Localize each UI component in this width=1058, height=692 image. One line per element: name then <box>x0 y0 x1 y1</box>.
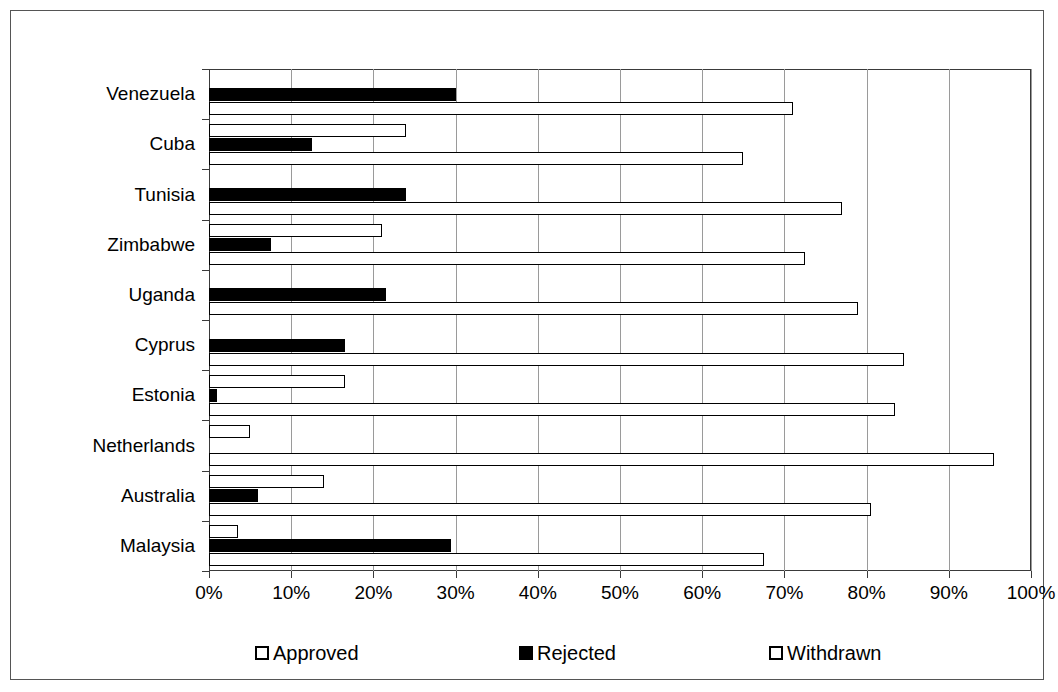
value-axis-tick-label: 20% <box>354 583 392 602</box>
category-axis-tick <box>202 69 209 70</box>
value-axis-tick-label: 50% <box>601 583 639 602</box>
bar-rejected[interactable] <box>209 138 312 151</box>
value-axis-tick <box>867 571 868 578</box>
value-axis-tick <box>620 571 621 578</box>
bar-approved[interactable] <box>209 503 871 516</box>
bar-group <box>209 471 1031 521</box>
bar-approved[interactable] <box>209 353 904 366</box>
value-axis-tick <box>784 571 785 578</box>
bar-rejected[interactable] <box>209 339 345 352</box>
bar-group <box>209 370 1031 420</box>
value-axis-tick <box>209 571 210 578</box>
category-label: Australia <box>121 486 195 505</box>
value-axis-tick-label: 100% <box>1007 583 1056 602</box>
legend-label: Rejected <box>537 642 616 665</box>
value-axis-tick <box>538 571 539 578</box>
legend-label: Approved <box>273 642 359 665</box>
bar-withdrawn[interactable] <box>209 375 345 388</box>
category-axis-tick <box>202 370 209 371</box>
bar-approved[interactable] <box>209 403 895 416</box>
chart-legend: ApprovedRejectedWithdrawn <box>209 636 1031 670</box>
legend-item-rejected[interactable]: Rejected <box>519 642 616 665</box>
category-label: Malaysia <box>120 536 195 555</box>
category-axis-tick <box>202 169 209 170</box>
value-axis-tick-label: 70% <box>765 583 803 602</box>
value-axis-tick <box>949 571 950 578</box>
value-axis-tick-label: 60% <box>683 583 721 602</box>
value-axis-tick-label: 80% <box>848 583 886 602</box>
category-axis-tick <box>202 521 209 522</box>
chart-figure: 0%10%20%30%40%50%60%70%80%90%100% Venezu… <box>10 10 1044 680</box>
bar-group <box>209 320 1031 370</box>
bar-approved[interactable] <box>209 553 764 566</box>
plot-wrapper: 0%10%20%30%40%50%60%70%80%90%100% Venezu… <box>209 69 1031 571</box>
legend-swatch-icon <box>255 646 269 660</box>
legend-item-withdrawn[interactable]: Withdrawn <box>769 642 881 665</box>
value-axis-tick <box>702 571 703 578</box>
bar-approved[interactable] <box>209 102 793 115</box>
bar-approved[interactable] <box>209 152 743 165</box>
bar-rejected[interactable] <box>209 539 451 552</box>
category-label: Venezuela <box>106 84 195 103</box>
category-axis-tick <box>202 320 209 321</box>
bar-group <box>209 220 1031 270</box>
value-axis-tick-label: 10% <box>272 583 310 602</box>
bar-rejected[interactable] <box>209 88 456 101</box>
category-axis-tick <box>202 420 209 421</box>
category-axis-tick <box>202 119 209 120</box>
value-axis-tick-label: 40% <box>519 583 557 602</box>
bar-withdrawn[interactable] <box>209 425 250 438</box>
bar-withdrawn[interactable] <box>209 224 382 237</box>
category-label: Tunisia <box>134 185 195 204</box>
bar-approved[interactable] <box>209 252 805 265</box>
category-label: Cyprus <box>135 335 195 354</box>
legend-swatch-icon <box>519 646 533 660</box>
category-label: Uganda <box>128 285 195 304</box>
legend-label: Withdrawn <box>787 642 881 665</box>
bar-withdrawn[interactable] <box>209 475 324 488</box>
value-axis-tick-label: 0% <box>195 583 222 602</box>
legend-swatch-icon <box>769 646 783 660</box>
bar-group <box>209 521 1031 571</box>
bar-withdrawn[interactable] <box>209 124 406 137</box>
gridline <box>1031 69 1032 571</box>
bar-group <box>209 119 1031 169</box>
category-label: Estonia <box>132 385 195 404</box>
bar-group <box>209 69 1031 119</box>
bar-group <box>209 169 1031 219</box>
value-axis-tick-label: 30% <box>437 583 475 602</box>
category-axis-tick <box>202 220 209 221</box>
bar-rejected[interactable] <box>209 238 271 251</box>
category-label: Netherlands <box>93 436 195 455</box>
value-axis-tick <box>456 571 457 578</box>
bar-rejected[interactable] <box>209 288 386 301</box>
bar-rejected[interactable] <box>209 389 217 402</box>
bar-group <box>209 270 1031 320</box>
value-axis-tick-label: 90% <box>930 583 968 602</box>
category-axis-tick <box>202 270 209 271</box>
category-axis-tick <box>202 571 209 572</box>
category-label: Cuba <box>150 134 195 153</box>
value-axis-tick <box>1031 571 1032 578</box>
category-axis-tick <box>202 471 209 472</box>
category-label: Zimbabwe <box>107 235 195 254</box>
legend-item-approved[interactable]: Approved <box>255 642 359 665</box>
bar-approved[interactable] <box>209 202 842 215</box>
bar-group <box>209 420 1031 470</box>
bar-approved[interactable] <box>209 453 994 466</box>
bar-withdrawn[interactable] <box>209 525 238 538</box>
value-axis-tick <box>291 571 292 578</box>
value-axis-tick <box>373 571 374 578</box>
bar-approved[interactable] <box>209 302 858 315</box>
bar-rejected[interactable] <box>209 489 258 502</box>
bar-rejected[interactable] <box>209 188 406 201</box>
